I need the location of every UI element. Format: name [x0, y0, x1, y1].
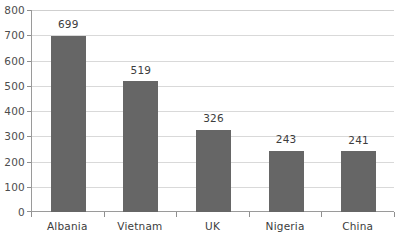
x-axis-tick-mark [31, 212, 32, 217]
bar-chart: 800 700 600 500 400 300 200 100 0 [0, 0, 400, 241]
bar-uk [196, 130, 231, 212]
x-axis-category-label-china: China [313, 221, 400, 232]
y-axis-tick-label: 0 [0, 207, 25, 218]
y-axis-tick-label: 100 [0, 182, 25, 193]
x-axis-tick-mark [176, 212, 177, 217]
plot-area [31, 10, 394, 212]
x-axis-tick-mark [321, 212, 322, 217]
y-axis-tick-label: 800 [0, 5, 25, 16]
x-axis-tick-mark [249, 212, 250, 217]
y-axis-line [31, 10, 32, 212]
bar-china [341, 151, 376, 212]
y-axis-tick-label: 500 [0, 81, 25, 92]
bar-value-label: 699 [38, 19, 98, 30]
x-axis-tick-mark [394, 212, 395, 217]
x-axis-tick-mark [104, 212, 105, 217]
y-axis-tick-label: 200 [0, 157, 25, 168]
bar-nigeria [269, 151, 304, 212]
bar-albania [51, 36, 86, 213]
bar-value-label: 326 [184, 113, 244, 124]
bar-value-label: 519 [111, 65, 171, 76]
y-axis-tick-label: 600 [0, 56, 25, 67]
bar-value-label: 241 [329, 135, 389, 146]
y-axis-tick-label: 400 [0, 106, 25, 117]
gridline-800 [31, 10, 394, 11]
y-axis-tick-label: 700 [0, 30, 25, 41]
y-axis-tick-label: 300 [0, 131, 25, 142]
bar-value-label: 243 [256, 134, 316, 145]
bar-vietnam [123, 81, 158, 212]
